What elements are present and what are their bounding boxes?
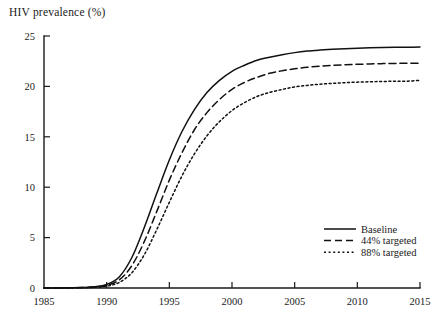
- y-tick-label: 20: [25, 81, 36, 92]
- y-axis-ticks: 0510152025: [25, 31, 51, 294]
- x-tick-label: 1995: [159, 296, 180, 307]
- x-tick-label: 2015: [410, 296, 431, 307]
- plot-area: 0510152025 1985199019952000200520102015 …: [0, 0, 441, 318]
- legend-label: 44% targeted: [361, 235, 417, 246]
- y-tick-label: 0: [30, 283, 35, 294]
- x-tick-label: 1985: [34, 296, 55, 307]
- x-tick-label: 2005: [284, 296, 305, 307]
- x-tick-label: 2010: [347, 296, 368, 307]
- x-axis-ticks: 1985199019952000200520102015: [34, 282, 431, 307]
- hiv-prevalence-chart: HIV prevalence (%) 0510152025 1985199019…: [0, 0, 441, 318]
- chart-legend: Baseline44% targeted88% targeted: [324, 224, 417, 258]
- y-tick-label: 15: [25, 132, 36, 143]
- y-tick-label: 25: [25, 31, 36, 42]
- x-tick-label: 2000: [222, 296, 243, 307]
- legend-label: 88% targeted: [361, 247, 417, 258]
- y-tick-label: 10: [25, 182, 36, 193]
- legend-label: Baseline: [361, 224, 397, 235]
- y-tick-label: 5: [30, 232, 35, 243]
- x-tick-label: 1990: [96, 296, 117, 307]
